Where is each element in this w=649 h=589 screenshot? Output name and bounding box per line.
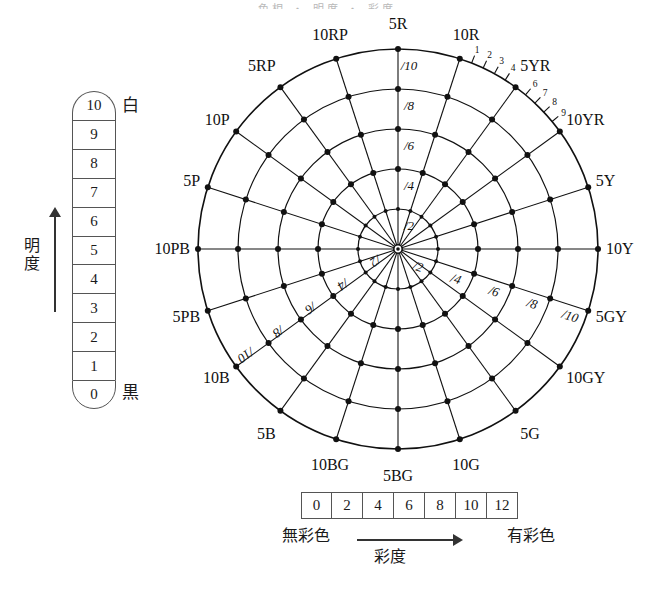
hue-label: 5RP — [248, 57, 276, 74]
hue-chroma-node — [408, 285, 412, 289]
hue-chroma-node — [275, 246, 281, 252]
hue-chroma-node — [358, 235, 362, 239]
hue-chroma-node — [384, 209, 388, 213]
hue-spoke — [398, 131, 560, 249]
hue-tick-number: 1 — [475, 45, 480, 55]
hue-chroma-node — [492, 317, 498, 323]
chroma-achromatic-label: 無彩色 — [282, 528, 330, 544]
hue-chroma-node — [395, 86, 401, 92]
hue-chroma-node — [324, 343, 330, 349]
hue-label: 10GY — [566, 369, 606, 386]
hue-tick-number: 7 — [543, 88, 548, 98]
hue-chroma-node — [395, 366, 401, 372]
hue-label: 5P — [183, 172, 200, 189]
hue-chroma-node — [346, 94, 352, 100]
hue-chroma-node — [466, 343, 472, 349]
hue-label: 10RP — [312, 26, 348, 43]
hue-chroma-node — [428, 223, 432, 227]
hue-chroma-node — [547, 295, 553, 301]
hue-chroma-node — [346, 398, 352, 404]
hue-chroma-node — [195, 246, 201, 252]
hue-label: 5PB — [173, 308, 201, 325]
hue-chroma-node — [266, 152, 272, 158]
hue-chroma-node — [348, 181, 354, 187]
hue-chroma-node — [466, 149, 472, 155]
hue-chroma-node — [358, 259, 362, 263]
hue-spoke — [398, 87, 516, 249]
hue-label: 10BG — [311, 456, 350, 473]
hue-label: 10R — [453, 26, 480, 43]
hue-chroma-node — [420, 170, 426, 176]
hue-chroma-node — [471, 271, 477, 277]
hue-tick-number: 4 — [511, 63, 516, 73]
hue-circle-svg: 5R10R5YR10YR5Y10Y5GY10GY5G10G5BG10BG5B10… — [0, 0, 649, 500]
hue-tick-mark — [535, 97, 540, 103]
hue-label: 10PB — [154, 240, 190, 257]
hue-chroma-node — [356, 247, 360, 251]
hue-tick-number: 3 — [499, 56, 504, 66]
hue-chroma-node — [489, 117, 495, 123]
hue-chroma-node — [475, 246, 481, 252]
hue-spoke — [280, 249, 398, 411]
hue-tick-mark — [494, 67, 498, 74]
hue-chroma-node — [348, 311, 354, 317]
hue-tick-number: 2 — [487, 50, 492, 60]
hue-chroma-node — [428, 271, 432, 275]
hue-chroma-node — [301, 375, 307, 381]
hue-chroma-node — [420, 279, 424, 283]
hue-chroma-node — [408, 209, 412, 213]
hue-chroma-node — [324, 149, 330, 155]
hue-label: 10G — [452, 456, 480, 473]
hue-tick-mark — [552, 116, 558, 121]
chroma-step-label: /6 — [403, 138, 415, 153]
hue-tick-mark — [525, 89, 530, 95]
hue-chroma-node — [301, 117, 307, 123]
hue-chroma-node — [315, 246, 321, 252]
chroma-step-label: /8 — [269, 322, 287, 341]
hue-label: 5B — [257, 425, 276, 442]
hue-chroma-node — [557, 128, 563, 134]
hue-chroma-node — [243, 295, 249, 301]
hue-tick-mark — [483, 61, 486, 68]
chroma-step-label: /6 — [302, 299, 320, 318]
hue-chroma-node — [370, 322, 376, 328]
hue-chroma-node — [330, 199, 336, 205]
hue-chroma-node — [434, 235, 438, 239]
hue-chroma-node — [460, 199, 466, 205]
hue-chroma-node — [396, 287, 400, 291]
hue-chroma-node — [557, 364, 563, 370]
hue-chroma-node — [395, 166, 401, 172]
hue-label: 10Y — [606, 240, 634, 257]
hue-tick-number: 8 — [552, 97, 557, 107]
hue-chroma-node — [444, 94, 450, 100]
hue-chroma-node — [370, 170, 376, 176]
hue-chroma-node — [585, 308, 591, 314]
hue-chroma-node — [277, 408, 283, 414]
chroma-step-label: /4 — [403, 178, 415, 193]
hue-chroma-node — [395, 446, 401, 452]
hue-label: 10P — [205, 111, 230, 128]
hue-label: 10YR — [566, 111, 605, 128]
hue-tick-number: 6 — [533, 79, 538, 89]
hue-chroma-node — [333, 56, 339, 62]
hue-chroma-node — [205, 308, 211, 314]
hue-label: 5Y — [596, 172, 616, 189]
hue-chroma-node — [513, 408, 519, 414]
hue-spoke — [236, 131, 398, 249]
hue-chroma-node — [555, 246, 561, 252]
hue-chroma-node — [235, 246, 241, 252]
hue-chroma-node — [457, 436, 463, 442]
hue-chroma-node — [420, 322, 426, 328]
hue-tick-number: 9 — [561, 108, 566, 118]
hue-chroma-node — [444, 398, 450, 404]
hue-label: 10B — [203, 369, 230, 386]
hue-label: 5R — [389, 15, 408, 32]
hue-chroma-node — [266, 340, 272, 346]
hue-chroma-node — [595, 246, 601, 252]
chroma-step-label: /2 — [403, 218, 415, 233]
hue-chroma-node — [442, 181, 448, 187]
hue-chroma-node — [515, 246, 521, 252]
hue-label: 5GY — [596, 308, 628, 325]
hue-label: 5G — [520, 425, 540, 442]
hue-spoke — [398, 187, 588, 249]
